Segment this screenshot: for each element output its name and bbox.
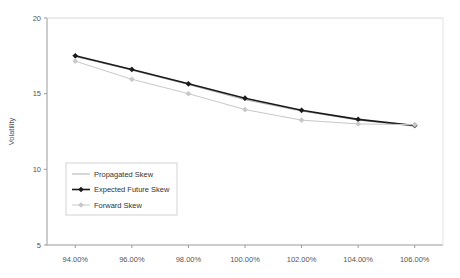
legend-item-label-2: Forward Skew [94,201,143,210]
x-tick-label: 98.00% [176,255,202,264]
y-tick-label: 20 [33,14,41,23]
volatility-skew-chart: 510152094.00%96.00%98.00%100.00%102.00%1… [0,0,460,278]
series-marker-2 [356,121,361,126]
x-tick-label: 104.00% [343,255,373,264]
series-marker-1 [186,81,191,86]
legend-item-label-1: Expected Future Skew [94,185,170,194]
x-tick-label: 94.00% [63,255,89,264]
x-tick-label: 106.00% [400,255,430,264]
series-marker-2 [242,107,247,112]
x-tick-label: 100.00% [230,255,260,264]
series-line-1 [75,56,414,126]
y-tick-label: 10 [33,165,41,174]
y-axis-title: Volatility [7,117,16,145]
y-tick-label: 15 [33,89,41,98]
series-marker-1 [129,67,134,72]
x-tick-label: 102.00% [287,255,317,264]
series-marker-1 [73,53,78,58]
series-marker-2 [299,118,304,123]
series-marker-1 [299,108,304,113]
series-marker-2 [129,77,134,82]
series-line-0 [75,57,414,127]
series-marker-2 [73,59,78,64]
series-marker-2 [186,91,191,96]
y-tick-label: 5 [37,241,41,250]
chart-container: 510152094.00%96.00%98.00%100.00%102.00%1… [0,0,460,278]
legend-item-label-0: Propagated Skew [94,170,154,179]
x-tick-label: 96.00% [119,255,145,264]
series-line-2 [75,61,414,125]
